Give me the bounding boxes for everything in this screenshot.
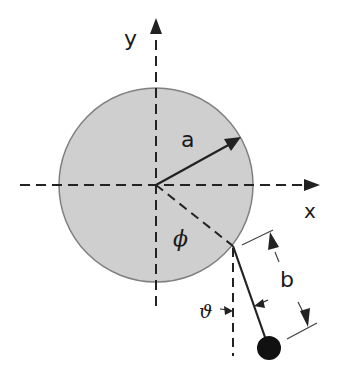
theta-label: ϑ [199, 300, 213, 322]
dimension-extension-bottom [287, 323, 317, 339]
theta-arrow-right-icon [254, 299, 265, 308]
x-axis-arrow-icon [304, 179, 320, 191]
pendulum-rod [233, 246, 266, 340]
b-arrow-bottom-icon [300, 308, 310, 327]
theta-arrow-left-icon [224, 306, 233, 315]
pendulum-disk-diagram: y x a ϕ ϑ b [0, 0, 339, 377]
y-axis-arrow-icon [150, 18, 162, 34]
b-arrow-top-icon [268, 232, 279, 250]
pendulum-bob [257, 336, 281, 360]
length-label-b: b [280, 267, 294, 292]
phi-label: ϕ [173, 226, 188, 251]
theta-angle-indicator [220, 299, 268, 315]
y-axis-label: y [124, 26, 137, 51]
x-axis-label: x [304, 199, 316, 223]
dimension-extension-top [242, 230, 273, 245]
radius-label-a: a [181, 127, 194, 152]
